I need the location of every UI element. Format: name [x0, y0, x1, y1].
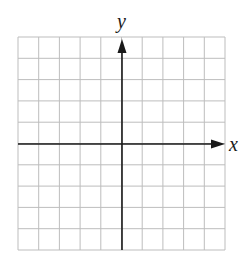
x-axis-label: x [228, 133, 238, 155]
coordinate-plane: x y [0, 0, 251, 274]
x-axis-arrow-icon [211, 140, 225, 149]
y-axis-label: y [115, 10, 126, 33]
y-axis-arrow-icon [118, 39, 127, 53]
